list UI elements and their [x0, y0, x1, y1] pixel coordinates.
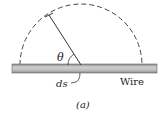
wire-label: Wire [120, 76, 144, 87]
ds-leader [71, 73, 80, 83]
radius-line [49, 15, 81, 65]
ds-label: ds [56, 78, 68, 89]
wire [12, 64, 157, 73]
caption: (a) [76, 99, 90, 110]
angle-arc [68, 54, 74, 65]
wire-field-diagram: θ ds Wire (a) [0, 0, 165, 120]
angle-label: θ [57, 51, 64, 64]
dashed-semicircle [20, 4, 142, 65]
